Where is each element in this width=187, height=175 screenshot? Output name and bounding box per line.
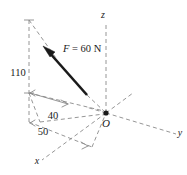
x-axis-label: x: [34, 155, 40, 166]
mechanics-figure: z y x O 110 40 50 F = 60 N: [0, 0, 187, 175]
z-axis-label: z: [100, 9, 105, 20]
width-dimension-label: 50: [38, 126, 49, 137]
origin-label: O: [102, 117, 110, 129]
force-magnitude-label: F = 60 N: [62, 43, 102, 54]
figure-background: [0, 0, 187, 175]
height-dimension-label: 110: [10, 67, 25, 78]
force-value-text: = 60 N: [69, 43, 101, 54]
force-vector-diagram: z y x O 110 40 50 F = 60 N: [0, 0, 187, 175]
y-axis-label: y: [177, 127, 183, 138]
origin-dot-icon: [103, 110, 108, 115]
depth-dimension-label: 40: [48, 110, 59, 121]
